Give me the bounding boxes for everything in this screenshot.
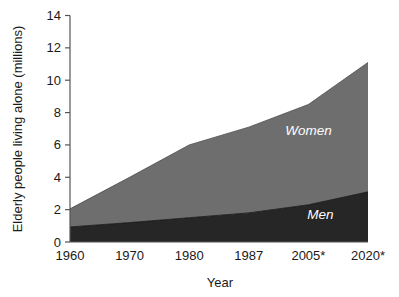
y-tick-label: 2: [54, 202, 61, 217]
x-tick-label: 1987: [234, 248, 263, 263]
series-label-women: Women: [285, 123, 332, 138]
y-tick-label: 4: [54, 170, 61, 185]
x-tick-label: 1970: [115, 248, 144, 263]
y-tick-label: 8: [54, 105, 61, 120]
y-tick-label: 14: [47, 8, 61, 23]
y-tick-label: 6: [54, 137, 61, 152]
y-axis-title: Elderly people living alone (millions): [10, 26, 25, 233]
chart-figure: 02468101214 19601970198019872005*2020* E…: [0, 0, 399, 297]
y-tick-label: 10: [47, 73, 61, 88]
x-tick-label: 1980: [175, 248, 204, 263]
series-label-men: Men: [307, 207, 333, 222]
x-tick-label: 1960: [56, 248, 85, 263]
area-chart-svg: 02468101214 19601970198019872005*2020* E…: [0, 0, 399, 297]
x-axis-title: Year: [207, 275, 234, 290]
x-tick-label: 2005*: [291, 248, 325, 263]
y-tick-label: 12: [47, 40, 61, 55]
x-tick-label: 2020*: [351, 248, 385, 263]
